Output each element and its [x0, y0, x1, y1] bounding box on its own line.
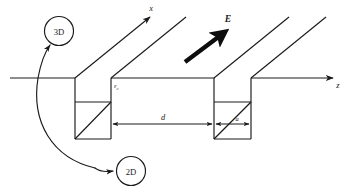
figure-root: E x z εc d a 3D 2D: [0, 0, 351, 193]
dimension-a-label: a: [235, 115, 238, 122]
groove1-diagonal-edge: [75, 102, 111, 139]
callout-2d-label: 2D: [126, 167, 137, 177]
groove2-diagonal-edge: [214, 102, 251, 139]
electric-field-arrow: [185, 32, 225, 62]
epsilon-subscript: c: [116, 86, 118, 91]
dimension-d-label: d: [161, 113, 166, 122]
depth-edge-groove1-right: [111, 17, 186, 78]
x-axis-label: x: [148, 4, 153, 13]
electric-field-label: E: [224, 13, 231, 24]
depth-edge-groove2-right: [251, 17, 326, 78]
callout-arrow-2d: [95, 168, 113, 172]
z-axis-label: z: [335, 81, 340, 90]
callout-arrow-3d: [37, 45, 95, 168]
diagram-canvas: E x z εc d a 3D 2D: [0, 0, 351, 193]
depth-edge-groove2-left: [214, 17, 289, 78]
conduction-band-edge-label: εc: [114, 82, 118, 91]
callout-3d-label: 3D: [54, 27, 65, 37]
x-axis-arrow: [75, 17, 150, 78]
